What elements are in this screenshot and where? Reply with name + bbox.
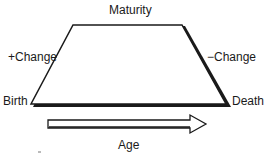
age-arrow-icon (48, 115, 206, 133)
death-label: Death (232, 94, 264, 108)
maturity-label: Maturity (109, 3, 152, 17)
birth-label: Birth (3, 94, 28, 108)
lifecycle-diagram (0, 0, 268, 157)
plus-change-label: +Change (8, 50, 57, 64)
minus-change-label: −Change (207, 50, 256, 64)
lifecycle-trapezoid (31, 25, 226, 104)
age-axis-label: Age (118, 138, 139, 152)
